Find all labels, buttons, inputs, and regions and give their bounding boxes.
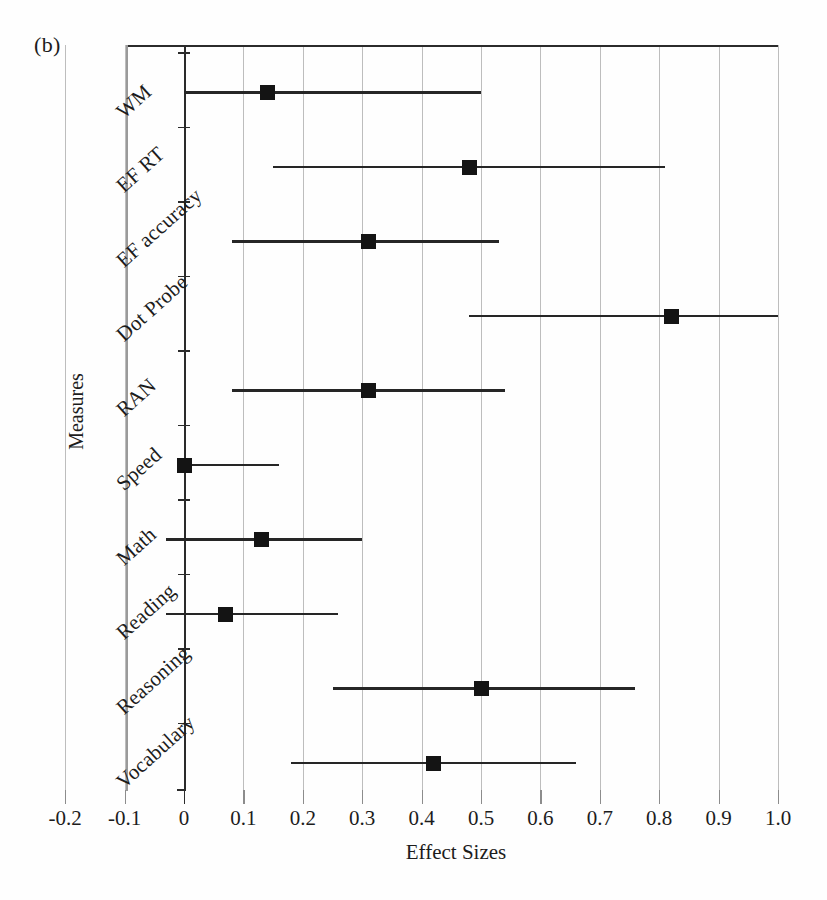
x-tick-label-5: 0.3 — [349, 806, 375, 831]
effect-size-marker — [664, 309, 679, 324]
x-tick-12 — [778, 790, 779, 804]
x-tick-label-7: 0.5 — [468, 806, 494, 831]
x-tick-label-6: 0.4 — [408, 806, 434, 831]
x-tick-label-11: 0.9 — [705, 806, 731, 831]
effect-size-marker — [218, 607, 233, 622]
x-tick-label-2: 0 — [179, 806, 190, 831]
x-tick-label-3: 0.1 — [230, 806, 256, 831]
y-tick-0 — [178, 52, 190, 54]
effect-size-marker — [474, 681, 489, 696]
x-tick-label-9: 0.7 — [587, 806, 613, 831]
x-tick-label-1: -0.1 — [108, 806, 141, 831]
x-tick-5 — [362, 790, 363, 804]
x-tick-1 — [125, 790, 126, 804]
effect-size-marker — [462, 160, 477, 175]
plot-area: WMEF RTEF accuracyDot ProbeRANSpeedMathR… — [0, 0, 827, 900]
effect-size-marker — [177, 458, 192, 473]
x-tick-9 — [600, 790, 601, 804]
effect-size-marker — [260, 85, 275, 100]
x-tick-6 — [422, 790, 423, 804]
confidence-interval-line — [184, 464, 279, 467]
confidence-interval-line — [166, 613, 338, 616]
plot-frame-top — [126, 45, 778, 47]
effect-size-marker — [361, 383, 376, 398]
x-tick-8 — [540, 790, 541, 804]
confidence-interval-line — [469, 315, 778, 318]
effect-size-marker — [426, 756, 441, 771]
effect-size-marker — [361, 234, 376, 249]
x-tick-2 — [184, 790, 185, 804]
effect-size-marker — [254, 532, 269, 547]
x-tick-4 — [303, 790, 304, 804]
x-tick-label-0: -0.2 — [49, 806, 82, 831]
x-tick-7 — [481, 790, 482, 804]
x-tick-10 — [659, 790, 660, 804]
x-tick-label-8: 0.6 — [527, 806, 553, 831]
x-tick-0 — [65, 790, 66, 804]
x-tick-3 — [243, 790, 244, 804]
x-tick-label-12: 1.0 — [765, 806, 791, 831]
x-tick-label-10: 0.8 — [646, 806, 672, 831]
x-tick-11 — [719, 790, 720, 804]
confidence-interval-line — [184, 91, 481, 94]
figure-panel: (b) Measures Effect Sizes WMEF RTEF accu… — [0, 0, 827, 900]
zero-axis-cap-top — [177, 45, 186, 47]
x-tick-label-4: 0.2 — [290, 806, 316, 831]
